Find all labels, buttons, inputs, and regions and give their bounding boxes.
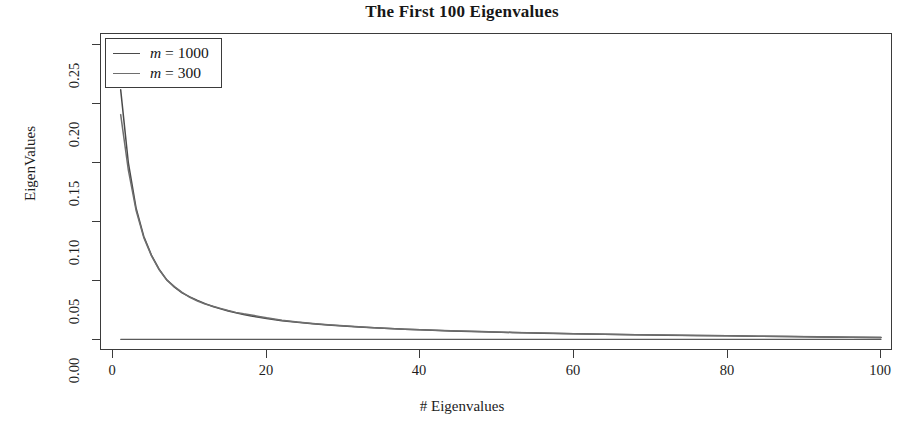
x-tick-label: 80 (697, 362, 757, 379)
y-tick-label: 0.00 (66, 341, 83, 401)
y-axis-title: EigenValues (22, 79, 39, 249)
series-group (121, 90, 881, 339)
series-line-m-300 (121, 115, 881, 338)
x-tick-mark (112, 350, 113, 358)
x-tick-label: 100 (850, 362, 910, 379)
chart-figure: The First 100 Eigenvalues EigenValues # … (0, 0, 924, 431)
y-tick-mark (92, 162, 100, 163)
legend-line-icon (113, 73, 140, 74)
page-title: The First 100 Eigenvalues (0, 2, 924, 22)
legend-item-m-1000[interactable]: m = 1000 (113, 43, 209, 63)
y-tick-label: 0.10 (66, 223, 83, 283)
legend-label: m = 300 (150, 64, 201, 82)
y-tick-mark (92, 280, 100, 281)
legend-value: 300 (178, 64, 201, 81)
y-tick-label: 0.15 (66, 164, 83, 224)
x-tick-label: 20 (236, 362, 296, 379)
x-tick-mark (419, 350, 420, 358)
legend-value: 1000 (178, 44, 209, 61)
legend-label: m = 1000 (150, 44, 209, 62)
y-tick-mark (92, 44, 100, 45)
legend: m = 1000 m = 300 (105, 38, 222, 88)
x-tick-label: 40 (389, 362, 449, 379)
y-tick-mark (92, 221, 100, 222)
x-tick-mark (880, 350, 881, 358)
x-tick-mark (727, 350, 728, 358)
legend-line-icon (113, 53, 140, 54)
y-tick-label: 0.05 (66, 282, 83, 342)
y-tick-label: 0.20 (66, 105, 83, 165)
x-axis-title: # Eigenvalues (0, 398, 924, 415)
x-tick-label: 60 (543, 362, 603, 379)
legend-item-m-300[interactable]: m = 300 (113, 63, 209, 83)
y-tick-label: 0.25 (66, 46, 83, 106)
y-tick-mark (92, 103, 100, 104)
series-line-m-1000 (121, 90, 881, 338)
x-tick-mark (266, 350, 267, 358)
x-tick-mark (573, 350, 574, 358)
y-tick-mark (92, 339, 100, 340)
x-tick-label: 0 (82, 362, 142, 379)
